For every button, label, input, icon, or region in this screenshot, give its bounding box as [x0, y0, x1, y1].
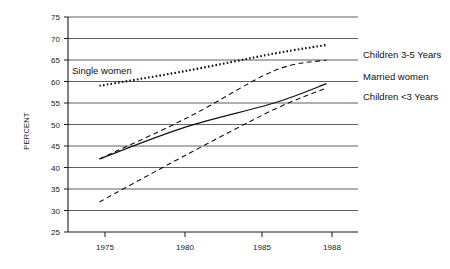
y-tick-label-25: 25 — [51, 228, 60, 237]
series-label-married-women: Married women — [363, 71, 428, 82]
y-tick-label-75: 75 — [51, 13, 60, 22]
y-tick-label-30: 30 — [51, 207, 60, 216]
x-tick-label-1988: 1988 — [323, 243, 341, 252]
y-axis-title: PERCENT — [22, 112, 31, 149]
y-tick-label-65: 65 — [51, 56, 60, 65]
line-chart: 75 70 65 60 55 50 45 40 35 30 25 1975 19… — [0, 0, 450, 269]
x-tick-label-1975: 1975 — [96, 243, 114, 252]
x-tick-label-1980: 1980 — [176, 243, 194, 252]
y-tick-label-50: 50 — [51, 121, 60, 130]
chart-figure: 75 70 65 60 55 50 45 40 35 30 25 1975 19… — [0, 0, 450, 269]
series-label-children-under-3-years: Children <3 Years — [363, 91, 439, 102]
y-tick-label-55: 55 — [51, 99, 60, 108]
y-tick-label-70: 70 — [51, 35, 60, 44]
series-label-children-3-5-years: Children 3-5 Years — [363, 49, 441, 60]
y-tick-label-35: 35 — [51, 185, 60, 194]
series-label-single-women: Single women — [72, 65, 132, 76]
y-tick-label-60: 60 — [51, 78, 60, 87]
y-tick-label-45: 45 — [51, 142, 60, 151]
y-tick-label-40: 40 — [51, 164, 60, 173]
x-tick-label-1985: 1985 — [253, 243, 271, 252]
